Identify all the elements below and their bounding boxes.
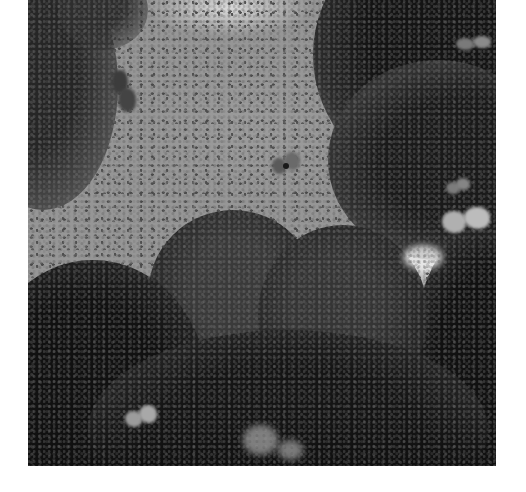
- light-gap-bottom-center-2: [278, 440, 303, 460]
- butterfly-canopy-photo: [28, 0, 496, 466]
- butterfly-icon: [442, 205, 492, 235]
- light-gap-bottom-center: [243, 425, 278, 455]
- butterfly-icon: [446, 178, 470, 196]
- butterfly-icon: [272, 152, 302, 177]
- sky-gap-right: [403, 245, 443, 270]
- butterfly-icon: [125, 405, 159, 429]
- butterfly-icon: [110, 70, 140, 115]
- butterfly-icon: [456, 36, 492, 52]
